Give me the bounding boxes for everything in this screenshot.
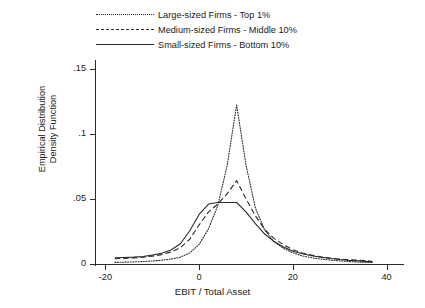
y-tick-label: .15 bbox=[56, 63, 86, 73]
legend-label-small-firms: Small-sized Firms - Bottom 10% bbox=[158, 40, 289, 50]
y-axis-label: Empirical Distribution Density Function bbox=[37, 39, 59, 219]
x-tick-mark bbox=[387, 265, 388, 270]
legend-line-solid-icon bbox=[96, 44, 154, 46]
y-axis-label-line2: Density Function bbox=[48, 39, 59, 219]
x-tick-label: 0 bbox=[179, 272, 219, 282]
x-axis-label: EBIT / Total Asset bbox=[0, 286, 425, 297]
y-tick-mark bbox=[90, 69, 95, 70]
legend-line-dashed-icon bbox=[96, 29, 154, 31]
legend-item-large-firms: Large-sized Firms - Top 1% bbox=[96, 8, 326, 22]
density-curve-small bbox=[115, 202, 373, 262]
x-tick-label: 40 bbox=[367, 272, 407, 282]
x-tick-mark bbox=[105, 265, 106, 270]
density-curve-large bbox=[115, 105, 373, 263]
y-tick-label: .1 bbox=[56, 128, 86, 138]
x-tick-mark bbox=[293, 265, 294, 270]
y-tick-label: .05 bbox=[56, 193, 86, 203]
x-tick-label: -20 bbox=[85, 272, 125, 282]
chart-legend: Large-sized Firms - Top 1% Medium-sized … bbox=[96, 8, 326, 53]
x-axis-line bbox=[92, 264, 404, 265]
y-tick-mark bbox=[90, 264, 95, 265]
density-chart-figure: Large-sized Firms - Top 1% Medium-sized … bbox=[0, 0, 425, 308]
legend-line-dotted-icon bbox=[96, 14, 154, 16]
legend-item-medium-firms: Medium-sized Firms - Middle 10% bbox=[96, 23, 326, 37]
x-tick-label: 20 bbox=[273, 272, 313, 282]
y-axis-label-line1: Empirical Distribution bbox=[37, 39, 48, 219]
y-tick-mark bbox=[90, 199, 95, 200]
density-curve-medium bbox=[115, 181, 373, 262]
x-tick-mark bbox=[199, 265, 200, 270]
y-tick-label: 0 bbox=[56, 258, 86, 268]
legend-item-small-firms: Small-sized Firms - Bottom 10% bbox=[96, 38, 326, 52]
legend-label-medium-firms: Medium-sized Firms - Middle 10% bbox=[158, 25, 297, 35]
density-curves bbox=[96, 62, 396, 264]
legend-label-large-firms: Large-sized Firms - Top 1% bbox=[158, 10, 270, 20]
y-tick-mark bbox=[90, 134, 95, 135]
plot-area bbox=[96, 62, 396, 264]
